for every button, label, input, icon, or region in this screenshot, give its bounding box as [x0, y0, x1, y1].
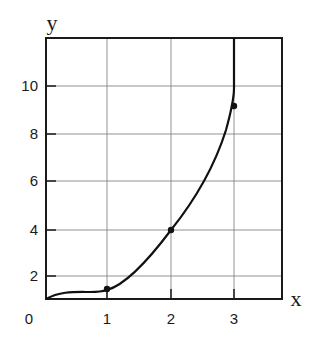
plot-frame [46, 38, 282, 299]
ytick-10: 10 [21, 77, 38, 94]
point-x1 [104, 286, 110, 292]
ytick-6: 6 [30, 172, 38, 189]
ytick-2: 2 [30, 267, 38, 284]
ytick-8: 8 [30, 125, 38, 142]
point-x2 [168, 227, 174, 233]
xtick-3: 3 [230, 310, 238, 327]
x-axis-label: x [291, 286, 302, 311]
grid [46, 38, 282, 299]
xtick-1: 1 [103, 310, 111, 327]
marked-points [104, 103, 237, 292]
chart: 2 4 6 8 10 0 1 2 3 y x [0, 0, 316, 338]
xtick-2: 2 [167, 310, 175, 327]
origin-label: 0 [25, 310, 33, 327]
y-axis-label: y [47, 10, 58, 35]
ytick-4: 4 [30, 221, 38, 238]
data-curve [46, 38, 234, 299]
point-x3 [231, 103, 237, 109]
